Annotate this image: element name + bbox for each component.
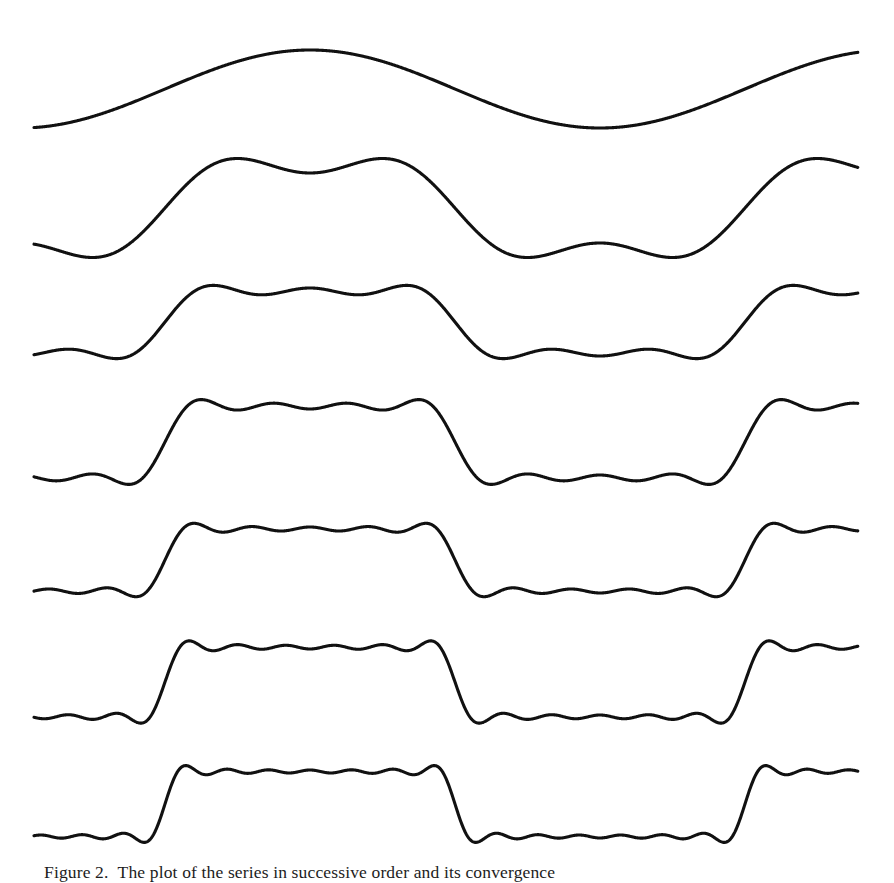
wave-trace-5 — [34, 523, 858, 596]
figure-caption-spacer — [109, 862, 118, 882]
figure-caption-text: The plot of the series in successive ord… — [118, 862, 556, 882]
fourier-wave-stack — [0, 0, 894, 860]
figure-caption: Figure 2. The plot of the series in succ… — [44, 862, 854, 883]
figure-caption-label: Figure 2. — [44, 862, 109, 882]
wave-trace-7 — [34, 766, 858, 843]
wave-trace-3 — [34, 285, 858, 358]
wave-trace-1 — [34, 50, 858, 128]
wave-trace-2 — [34, 159, 858, 258]
wave-trace-4 — [34, 400, 858, 485]
wave-trace-6 — [34, 641, 858, 723]
figure-container: Figure 2. The plot of the series in succ… — [0, 0, 894, 883]
